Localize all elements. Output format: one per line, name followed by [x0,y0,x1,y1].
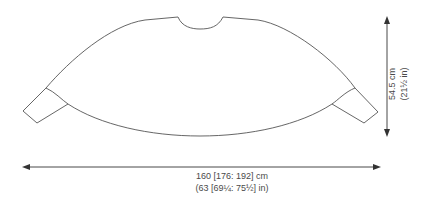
width-imperial: (63 [69¼: 75½] in) [117,182,347,194]
height-dimension-label: 54.5 cm (21½ in) [386,49,414,119]
height-metric: 54.5 cm [386,49,398,119]
width-dimension-label: 160 [176: 192] cm (63 [69¼: 75½] in) [0,170,429,194]
right-cuff [332,88,378,123]
width-metric: 160 [176: 192] cm [117,170,347,182]
left-cuff [23,88,68,123]
height-imperial: (21½ in) [398,49,410,119]
shawl-outline [46,17,355,136]
